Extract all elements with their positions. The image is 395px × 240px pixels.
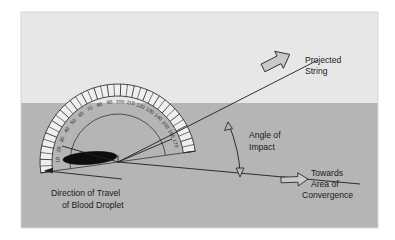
protractor-degree-label: 100 <box>116 98 125 104</box>
towards-convergence-label-line2: Area of <box>311 179 339 189</box>
direction-of-travel-label-line1: Direction of Travel <box>51 188 120 198</box>
direction-of-travel-label-line2: of Blood Droplet <box>62 200 124 210</box>
protractor-degree-label: 90 <box>106 99 113 106</box>
projected-string-label-line1: Projected <box>305 55 342 65</box>
towards-convergence-label-line3: Convergence <box>302 190 353 200</box>
angle-of-impact-label-line2: Impact <box>249 142 275 152</box>
figure-root: 1701601501401301201101009080706050403020… <box>0 0 395 240</box>
angle-of-impact-label-line1: Angle of <box>249 130 281 140</box>
towards-convergence-label-line1: Towards <box>311 168 343 178</box>
projected-string-label-line2: String <box>305 66 328 76</box>
protractor-degree-label: 10 <box>54 157 60 163</box>
bloodstain-angle-diagram: 1701601501401301201101009080706050403020… <box>0 0 395 240</box>
